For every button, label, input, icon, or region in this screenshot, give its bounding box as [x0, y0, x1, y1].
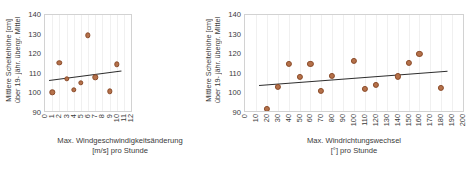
- y-tick-label: 120: [228, 49, 241, 58]
- data-point: [264, 106, 270, 112]
- gridline-vertical: [102, 15, 103, 111]
- gridline-vertical: [376, 15, 377, 111]
- x-tick-label: 60: [305, 114, 314, 122]
- y-axis-title-left: Mittlere Scheitelhöhe [cm] über 19- jähr…: [2, 4, 24, 116]
- data-point: [307, 61, 313, 67]
- y-tick-label: 140: [228, 10, 241, 19]
- y-axis-title-right: Mittlere Scheitelhöhe [cm] über 19- jähr…: [202, 4, 224, 116]
- x-tick-label: 160: [414, 114, 423, 126]
- gridline-vertical: [81, 15, 82, 111]
- x-tick-label: 180: [436, 114, 445, 126]
- x-tick-label: 140: [393, 114, 402, 126]
- data-point: [373, 82, 379, 88]
- data-point: [362, 86, 368, 92]
- gridline-vertical: [52, 15, 53, 111]
- gridline-vertical: [88, 15, 89, 111]
- data-point: [57, 60, 62, 65]
- gridline-vertical: [124, 15, 125, 111]
- x-tick-label: 0: [240, 114, 249, 118]
- data-point: [405, 60, 411, 66]
- x-tick-label: 120: [371, 114, 380, 126]
- data-point: [71, 87, 76, 92]
- data-point: [286, 61, 292, 67]
- x-tick-label: 100: [349, 114, 358, 126]
- gridline-vertical: [365, 15, 366, 111]
- x-tick-label: 30: [273, 114, 282, 122]
- data-point: [92, 75, 97, 80]
- x-tick-label: 10: [251, 114, 260, 122]
- gridline-vertical: [321, 15, 322, 111]
- gridline-vertical: [343, 15, 344, 111]
- y-axis-title-left-line1: Mittlere Scheitelhöhe [cm]: [4, 19, 13, 102]
- x-axis-title-right-line2: [°] pro Stunde: [240, 146, 468, 156]
- x-axis-title-left-line1: Max. Windgeschwindigkeitsänderung: [57, 136, 182, 145]
- data-point: [114, 61, 119, 66]
- gridline-vertical: [387, 15, 388, 111]
- x-tick-label: 12: [126, 114, 135, 122]
- data-point: [107, 89, 112, 94]
- y-tick-label: 110: [229, 68, 241, 77]
- y-tick-labels-right: 140 130 120 110 100 90: [224, 0, 241, 118]
- x-tick-labels-right: 0102030405060708090100110120130140150160…: [244, 113, 464, 133]
- x-tick-label: 130: [382, 114, 391, 126]
- x-tick-label: 150: [404, 114, 413, 126]
- gridline-vertical: [419, 15, 420, 111]
- gridline-vertical: [278, 15, 279, 111]
- x-tick-labels-left: 0123456789101112: [44, 113, 132, 131]
- y-tick-label: 130: [28, 29, 41, 38]
- gridline-vertical: [430, 15, 431, 111]
- data-point: [329, 73, 335, 79]
- y-axis-title-right-line2: über 19- jähr. übergr. Mittel: [213, 17, 222, 103]
- y-tick-label: 130: [228, 29, 241, 38]
- y-tick-label: 140: [28, 10, 41, 19]
- data-point: [296, 74, 302, 80]
- x-tick-label: 20: [262, 114, 271, 122]
- x-tick-label: 80: [327, 114, 336, 122]
- gridline-vertical: [67, 15, 68, 111]
- x-tick-label: 110: [360, 114, 369, 126]
- y-axis-title-right-line1: Mittlere Scheitelhöhe [cm]: [204, 19, 213, 102]
- x-tick-label: 70: [316, 114, 325, 122]
- y-tick-label: 120: [28, 49, 41, 58]
- gridline-vertical: [441, 15, 442, 111]
- plot-area-right: [244, 14, 464, 112]
- x-tick-label: 200: [458, 114, 467, 126]
- data-point: [85, 32, 90, 37]
- figure-two-scatter-panels: Mittlere Scheitelhöhe [cm] über 19- jähr…: [0, 0, 472, 170]
- gridline-vertical: [256, 15, 257, 111]
- chart-panel-left: Mittlere Scheitelhöhe [cm] über 19- jähr…: [0, 0, 236, 170]
- x-axis-title-left-line2: [m/s] pro Stunde: [8, 146, 232, 156]
- data-point: [49, 90, 54, 95]
- x-axis-title-left: Max. Windgeschwindigkeitsänderung [m/s] …: [8, 136, 232, 156]
- data-point: [438, 84, 444, 90]
- data-point: [64, 76, 69, 81]
- gridline-vertical: [452, 15, 453, 111]
- x-tick-label: 40: [284, 114, 293, 122]
- gridline-vertical: [74, 15, 75, 111]
- gridline-vertical: [332, 15, 333, 111]
- gridline-vertical: [95, 15, 96, 111]
- gridline-vertical: [131, 15, 132, 111]
- gridline-vertical: [300, 15, 301, 111]
- chart-panel-right: Mittlere Scheitelhöhe [cm] über 19- jähr…: [236, 0, 472, 170]
- x-tick-label: 50: [295, 114, 304, 122]
- y-tick-label: 100: [228, 88, 241, 97]
- gridline-vertical: [463, 15, 464, 111]
- data-point: [318, 88, 324, 94]
- gridline-vertical: [110, 15, 111, 111]
- x-axis-title-right: Max. Windrichtungswechsel [°] pro Stunde: [240, 136, 468, 156]
- data-point: [395, 73, 401, 79]
- data-point: [416, 51, 422, 57]
- x-tick-label: 190: [447, 114, 456, 126]
- y-axis-title-left-line2: über 19- jähr. übergr. Mittel: [13, 17, 22, 103]
- data-point: [275, 84, 281, 90]
- y-tick-label: 100: [28, 88, 41, 97]
- data-point: [78, 80, 83, 85]
- y-tick-labels-left: 140 130 120 110 100 90: [24, 0, 41, 118]
- y-tick-label: 110: [29, 68, 41, 77]
- plot-area-left: [44, 14, 132, 112]
- data-point: [351, 58, 357, 64]
- x-axis-title-right-line1: Max. Windrichtungswechsel: [307, 136, 401, 145]
- x-tick-label: 170: [425, 114, 434, 126]
- gridline-vertical: [398, 15, 399, 111]
